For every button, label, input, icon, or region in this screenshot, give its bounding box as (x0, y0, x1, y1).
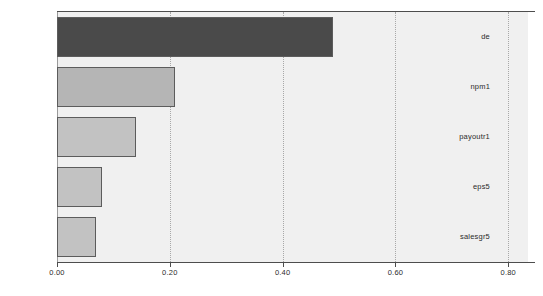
x-gridline (508, 12, 509, 262)
bar-salesgr5 (57, 217, 96, 257)
plot-top-border (57, 11, 535, 12)
y-axis-category-label: eps5 (473, 182, 490, 191)
y-axis-category-label: salesgr5 (460, 232, 490, 241)
y-axis-category-label: payoutr1 (459, 132, 490, 141)
x-axis-tick-label: 0.20 (162, 268, 177, 277)
x-axis-tick-label: 0.60 (388, 268, 403, 277)
x-axis-tick-label: 0.80 (501, 268, 516, 277)
x-gridline (395, 12, 396, 262)
y-axis-category-label: de (481, 32, 490, 41)
bar-eps5 (57, 167, 102, 207)
bar-payoutr1 (57, 117, 136, 157)
bar-chart: 0.000.200.400.600.80denpm1payoutr1eps5sa… (0, 0, 543, 296)
x-axis-tick-label: 0.00 (49, 268, 64, 277)
x-axis-line (57, 262, 535, 263)
bar-de (57, 17, 333, 57)
x-axis-tick-label: 0.40 (275, 268, 290, 277)
chart-title (0, 0, 543, 10)
y-axis-category-label: npm1 (470, 82, 490, 91)
bar-npm1 (57, 67, 175, 107)
